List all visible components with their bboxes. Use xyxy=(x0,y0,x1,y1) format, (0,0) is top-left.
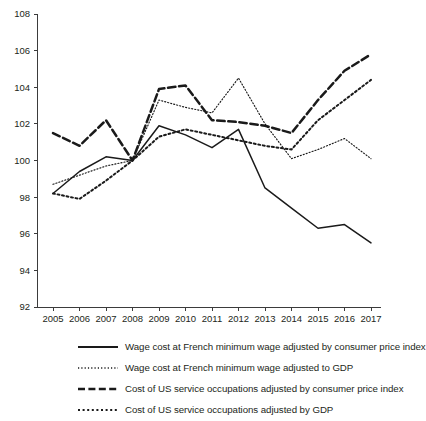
legend-item[interactable]: Cost of US service occupations adjusted … xyxy=(0,378,391,399)
legend-item-label: Wage cost at French minimum wage adjuste… xyxy=(125,362,353,373)
x-tick-label: 2012 xyxy=(228,313,249,324)
legend-item-label: Wage cost at French minimum wage adjuste… xyxy=(125,341,426,352)
y-tick-label: 98 xyxy=(19,192,30,203)
x-tick-label: 2005 xyxy=(42,313,63,324)
y-tick-label: 102 xyxy=(14,118,30,129)
x-axis: 2005200620072008200920102011201220132014… xyxy=(37,307,382,324)
y-tick-label: 106 xyxy=(14,45,30,56)
y-tick-label: 96 xyxy=(19,228,30,239)
legend-item[interactable]: Wage cost at French minimum wage adjuste… xyxy=(0,336,391,357)
legend-line-swatch xyxy=(78,362,118,374)
x-tick-label: 2015 xyxy=(307,313,328,324)
y-tick-label: 94 xyxy=(19,265,30,276)
legend-line-swatch xyxy=(78,383,118,395)
y-tick-label: 92 xyxy=(19,301,30,312)
series-line-2 xyxy=(53,54,371,160)
x-tick-label: 2008 xyxy=(122,313,143,324)
x-tick-label: 2009 xyxy=(148,313,169,324)
legend-item-label: Cost of US service occupations adjusted … xyxy=(125,404,333,415)
legend-item-label: Cost of US service occupations adjusted … xyxy=(125,383,403,394)
y-tick-label: 100 xyxy=(14,155,30,166)
x-tick-label: 2013 xyxy=(254,313,275,324)
series-line-3 xyxy=(53,80,371,199)
legend-line-swatch xyxy=(78,404,118,416)
chart-legend: Wage cost at French minimum wage adjuste… xyxy=(0,336,391,420)
legend-item[interactable]: Wage cost at French minimum wage adjuste… xyxy=(0,357,391,378)
x-tick-label: 2016 xyxy=(334,313,355,324)
x-tick-label: 2014 xyxy=(281,313,302,324)
x-tick-label: 2007 xyxy=(95,313,116,324)
x-tick-label: 2006 xyxy=(69,313,90,324)
x-tick-label: 2017 xyxy=(360,313,381,324)
x-tick-label: 2011 xyxy=(202,313,222,324)
legend-item[interactable]: Cost of US service occupations adjusted … xyxy=(0,399,391,420)
y-axis: 92949698100102104106108 xyxy=(14,8,37,312)
x-tick-label: 2010 xyxy=(175,313,196,324)
y-tick-label: 104 xyxy=(14,82,30,93)
y-tick-label: 108 xyxy=(14,8,30,19)
series-layer xyxy=(53,54,371,243)
legend-line-swatch xyxy=(78,341,118,353)
